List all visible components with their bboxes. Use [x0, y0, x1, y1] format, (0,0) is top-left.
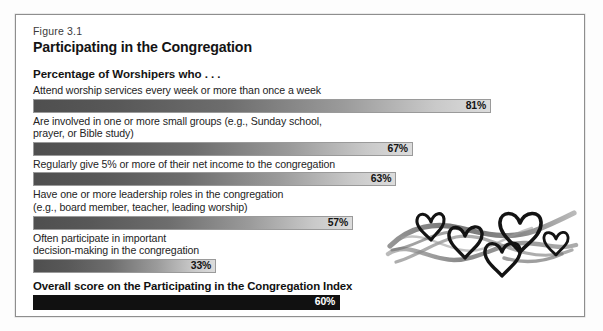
bar-track: 33% [33, 259, 572, 273]
figure-body: Figure 3.1 Participating in the Congrega… [33, 25, 572, 308]
bar-fill: 81% [33, 99, 491, 113]
bar-track: 57% [33, 216, 572, 230]
bar-track: 63% [33, 172, 572, 186]
summary-bar-value-label: 60% [315, 296, 340, 308]
summary-bar-fill: 60% [33, 295, 340, 310]
bar-row: Attend worship services every week or mo… [33, 84, 572, 113]
section-heading: Percentage of Worshipers who . . . [33, 67, 572, 81]
bar-fill: 67% [33, 142, 413, 156]
bar-row: Are involved in one or more small groups… [33, 115, 572, 156]
figure-frame: Figure 3.1 Participating in the Congrega… [15, 14, 585, 317]
bar-row: Have one or more leadership roles in the… [33, 188, 572, 229]
bar-label: Attend worship services every week or mo… [33, 84, 572, 97]
bar-value-label: 67% [387, 143, 412, 155]
bar-fill: 63% [33, 172, 396, 186]
bar-value-label: 57% [328, 217, 353, 229]
bar-label: Have one or more leadership roles in the… [33, 188, 572, 213]
bar-row: Regularly give 5% or more of their net i… [33, 158, 572, 187]
bar-track: 81% [33, 99, 572, 113]
figure-number: Figure 3.1 [33, 25, 572, 38]
bar-label: Often participate in important decision-… [33, 232, 572, 257]
bar-row: Often participate in important decision-… [33, 232, 572, 273]
bar-value-label: 63% [371, 173, 396, 185]
bar-label: Are involved in one or more small groups… [33, 115, 572, 140]
figure-title: Participating in the Congregation [33, 39, 572, 56]
bar-label: Regularly give 5% or more of their net i… [33, 158, 572, 171]
bar-value-label: 33% [191, 260, 216, 272]
bar-value-label: 81% [466, 100, 491, 112]
bar-fill: 57% [33, 216, 353, 230]
bar-track: 67% [33, 142, 572, 156]
summary-bar-track: 60% [33, 295, 572, 310]
bar-fill: 33% [33, 259, 216, 273]
summary-bar-label: Overall score on the Participating in th… [33, 279, 572, 293]
scanned-page: Figure 3.1 Participating in the Congrega… [0, 0, 603, 331]
